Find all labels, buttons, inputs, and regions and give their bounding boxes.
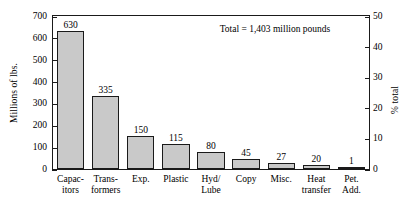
y-axis-left-tick-label: 500 (33, 56, 47, 66)
x-axis-category-label-line: Lube (182, 185, 240, 196)
bar-chart: Millions of lbs. % total 010020030040050… (0, 0, 412, 211)
y-axis-right-tick-label: 30 (373, 73, 383, 83)
y-axis-right-tick-label: 20 (373, 104, 383, 114)
y-axis-left-tick-label: 300 (33, 99, 47, 109)
y-axis-right-tick (365, 170, 370, 171)
y-axis-left-title: Millions of lbs. (9, 48, 19, 138)
y-axis-right-tick-label: 40 (373, 43, 383, 53)
x-axis-category-label-line: Add. (322, 185, 380, 196)
total-annotation: Total = 1,403 million pounds (200, 24, 350, 34)
y-axis-right-tick-label: 10 (373, 134, 383, 144)
y-axis-left-tick-label: 100 (33, 143, 47, 153)
bar-value-label: 335 (81, 86, 131, 96)
y-axis-right-title: % total (390, 60, 400, 140)
y-axis-left-tick-label: 200 (33, 121, 47, 131)
y-axis-left-tick-label: 400 (33, 78, 47, 88)
x-axis-category-label: Pet.Add. (322, 174, 380, 196)
x-axis-category-label-line: formers (77, 185, 135, 196)
bar-value-label: 630 (46, 21, 96, 31)
x-axis-category-label-line: Pet. (322, 174, 380, 185)
y-axis-left-tick-label: 700 (33, 12, 47, 22)
bar-value-label: 1 (326, 157, 376, 167)
bar (57, 31, 84, 169)
bar (338, 167, 365, 169)
y-axis-right-tick-label: 50 (373, 12, 383, 22)
y-axis-left-tick (52, 170, 57, 171)
y-axis-left-tick-label: 600 (33, 34, 47, 44)
